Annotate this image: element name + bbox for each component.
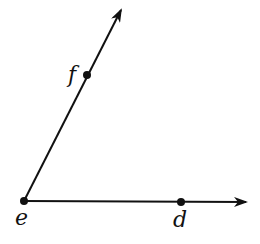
label-f: f xyxy=(66,62,80,87)
label-e: e xyxy=(15,205,28,230)
angle-diagram: f e d xyxy=(0,0,260,244)
ray-ef xyxy=(24,10,121,201)
label-d: d xyxy=(173,207,187,232)
ray-ed xyxy=(24,201,246,202)
point-f xyxy=(83,71,91,79)
point-e xyxy=(20,197,28,205)
point-d xyxy=(177,198,185,206)
